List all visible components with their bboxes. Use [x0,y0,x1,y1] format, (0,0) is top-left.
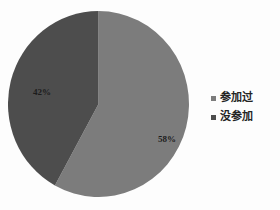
data-label-participated: 58% [158,135,176,144]
pie-plot-area: 42% 58% [8,11,189,197]
legend-label-participated: 参加过 [220,92,253,103]
legend-item-participated[interactable]: 参加过 [211,88,280,107]
chart-legend: 参加过 没参加 [211,88,280,126]
pie-chart: 42% 58% 参加过 没参加 [0,0,280,210]
square-marker-icon [211,115,216,120]
square-marker-icon [211,96,216,101]
data-label-not-participated: 42% [33,88,51,97]
pie-svg [8,11,189,197]
legend-label-not-participated: 没参加 [220,111,253,122]
legend-item-not-participated[interactable]: 没参加 [211,107,280,126]
